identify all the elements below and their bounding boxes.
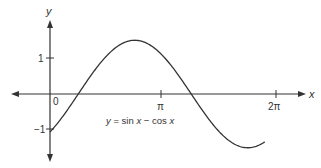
equation-minus: − cos <box>141 115 169 126</box>
y-axis-up-arrow-icon <box>47 20 53 28</box>
equation-x2: x <box>168 115 175 126</box>
chart: y x 0 π 2π 1 −1 y = sin x − cos x <box>0 0 321 168</box>
x-axis-label: x <box>308 88 315 100</box>
y-axis-down-arrow-icon <box>47 154 53 162</box>
equation-annotation: y = sin x − cos x <box>105 115 175 126</box>
origin-label: 0 <box>53 96 59 107</box>
equation-eq: = sin <box>111 115 137 126</box>
x-axis-right-arrow-icon <box>298 91 306 97</box>
y-tick-label-1: 1 <box>38 53 44 64</box>
y-tick-label-minus1: −1 <box>34 124 46 135</box>
y-axis-label: y <box>45 5 53 17</box>
plot-area: y x 0 π 2π 1 −1 y = sin x − cos x <box>0 0 321 168</box>
x-axis-left-arrow-icon <box>11 91 19 97</box>
pi-label: π <box>157 101 164 112</box>
two-pi-label: 2π <box>268 101 281 112</box>
